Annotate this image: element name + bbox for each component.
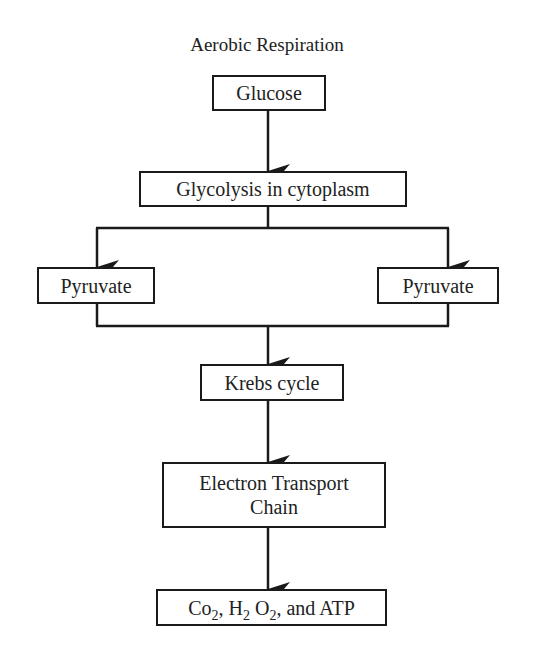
node-glucose: Glucose (212, 75, 326, 111)
node-pyruvate-left-label: Pyruvate (60, 274, 131, 298)
node-etc-label-line2: Chain (250, 495, 298, 519)
node-glucose-label: Glucose (236, 81, 302, 105)
node-pyruvate-right: Pyruvate (377, 267, 499, 304)
node-products: Co2, H2 O2, and ATP (156, 589, 387, 626)
node-pyruvate-right-label: Pyruvate (402, 274, 473, 298)
node-glycolysis: Glycolysis in cytoplasm (139, 171, 407, 207)
node-products-label: Co2, H2 O2, and ATP (188, 596, 355, 620)
node-krebs-cycle: Krebs cycle (200, 364, 344, 401)
node-pyruvate-left: Pyruvate (37, 267, 155, 304)
node-etc-label-line1: Electron Transport (199, 471, 348, 495)
node-electron-transport-chain: Electron Transport Chain (162, 462, 386, 528)
node-glycolysis-label: Glycolysis in cytoplasm (176, 177, 369, 201)
node-krebs-cycle-label: Krebs cycle (225, 371, 320, 395)
